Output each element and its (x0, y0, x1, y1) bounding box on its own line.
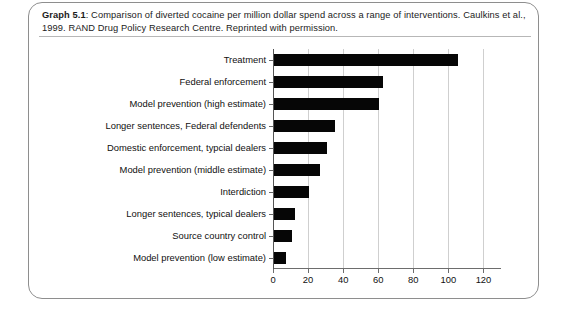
caption-text: Comparison of diverted cocaine per milli… (42, 10, 526, 33)
category-label: Domestic enforcement, typcial dealers (107, 137, 266, 159)
bar[interactable] (274, 164, 320, 176)
x-axis-tick (378, 269, 379, 273)
category-label: Model prevention (middle estimate) (120, 159, 266, 181)
category-label: Source country control (172, 225, 266, 247)
x-axis-tick-label: 0 (258, 274, 288, 285)
x-axis-tick (273, 269, 274, 273)
caption-label: Graph 5.1 (42, 10, 86, 20)
bar[interactable] (274, 142, 327, 154)
gridline (483, 49, 484, 268)
plot-area (273, 49, 501, 268)
category-label: Federal enforcement (179, 71, 266, 93)
bar[interactable] (274, 186, 309, 198)
x-axis-tick-label: 100 (433, 274, 463, 285)
x-axis-tick-label: 120 (468, 274, 498, 285)
x-axis-tick-label: 80 (398, 274, 428, 285)
category-label: Model prevention (high estimate) (129, 93, 266, 115)
x-axis-tick (483, 269, 484, 273)
x-axis-tick (448, 269, 449, 273)
category-label: Longer sentences, typical dealers (126, 203, 266, 225)
bar[interactable] (274, 252, 286, 264)
category-axis-labels: TreatmentFederal enforcementModel preven… (29, 49, 270, 268)
category-label: Longer sentences, Federal defendents (105, 115, 266, 137)
category-label: Treatment (224, 49, 266, 71)
category-label: Interdiction (220, 181, 266, 203)
bar[interactable] (274, 208, 295, 220)
bar[interactable] (274, 98, 379, 110)
figure-card: Graph 5.1: Comparison of diverted cocain… (28, 2, 539, 299)
bar[interactable] (274, 76, 383, 88)
x-axis-tick (413, 269, 414, 273)
category-label: Model prevention (low estimate) (133, 247, 266, 269)
y-axis-line (273, 49, 274, 269)
caption-divider (39, 36, 531, 37)
x-axis-tick (343, 269, 344, 273)
gridline (413, 49, 414, 268)
figure-caption: Graph 5.1: Comparison of diverted cocain… (42, 9, 528, 34)
bar[interactable] (274, 54, 458, 66)
bar[interactable] (274, 230, 292, 242)
x-axis-tick-label: 20 (293, 274, 323, 285)
x-axis-tick-label: 40 (328, 274, 358, 285)
x-axis-tick (308, 269, 309, 273)
gridline (448, 49, 449, 268)
bar[interactable] (274, 120, 335, 132)
x-axis-tick-label: 60 (363, 274, 393, 285)
bar-chart: TreatmentFederal enforcementModel preven… (29, 41, 538, 299)
